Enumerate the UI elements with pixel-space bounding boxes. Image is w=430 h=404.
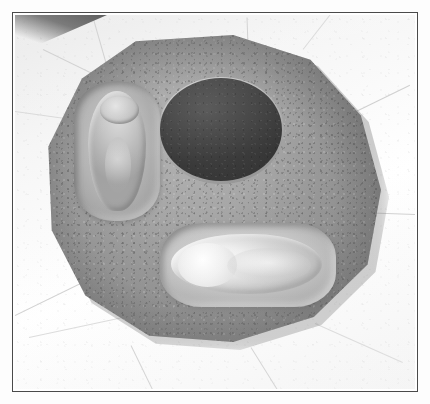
- footprint-arch-highlight: [105, 137, 131, 193]
- page-canvas: [0, 0, 430, 404]
- photograph: [15, 15, 415, 389]
- engraved-disc: [160, 78, 282, 181]
- footprint-impression-left: [74, 81, 160, 221]
- disc-grain-texture: [160, 78, 282, 181]
- footprint-impression-bottom: [160, 223, 336, 307]
- photo-frame: [12, 12, 418, 392]
